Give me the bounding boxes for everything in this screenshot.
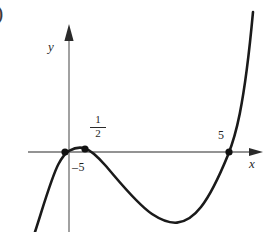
x-axis-label: x <box>249 157 255 170</box>
y-axis-arrowhead <box>64 24 73 41</box>
root-point-left <box>61 148 68 155</box>
fraction-denominator: 2 <box>90 128 106 140</box>
y-axis-label: y <box>48 40 54 53</box>
tick-label-negative-five: –5 <box>72 161 85 173</box>
root-point-right <box>225 148 232 155</box>
cubic-curve <box>35 12 253 232</box>
x-axis-arrowhead <box>249 148 263 156</box>
tick-label-one-half: 1 2 <box>90 114 106 140</box>
cubic-graph-figure: ) y x –5 5 1 2 <box>0 0 269 232</box>
tick-label-five: 5 <box>218 129 224 141</box>
fraction-numerator: 1 <box>90 114 106 126</box>
plot-canvas <box>0 0 269 232</box>
root-point-tangent <box>81 145 88 152</box>
